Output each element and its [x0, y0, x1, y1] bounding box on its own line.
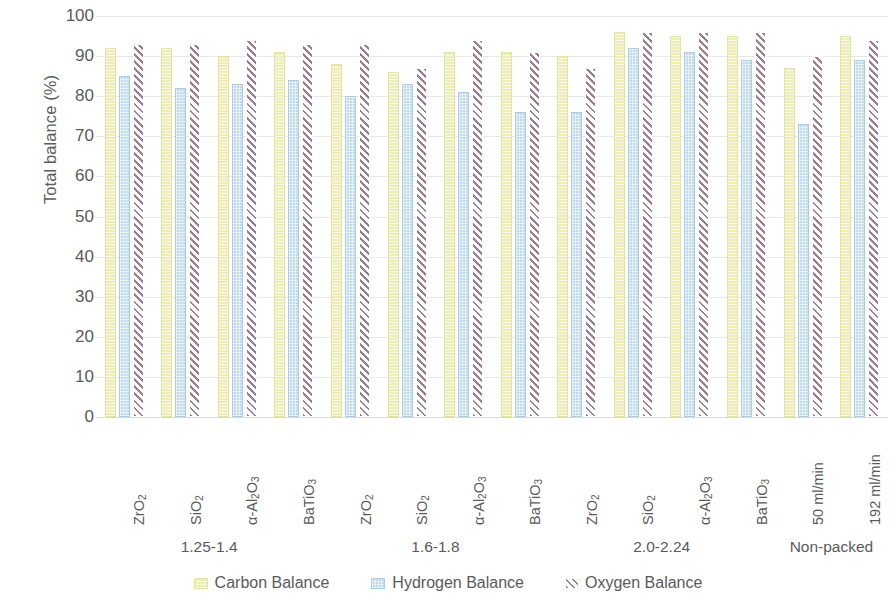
bar-oxygen-13[interactable] [868, 40, 879, 417]
bar-hydrogen-8[interactable] [571, 112, 582, 417]
legend-item-1[interactable]: Hydrogen Balance [371, 574, 524, 592]
bar-carbon-1[interactable] [161, 48, 172, 417]
y-tick-80: 80 [38, 87, 94, 104]
bar-hydrogen-7[interactable] [515, 112, 526, 417]
legend-item-0[interactable]: Carbon Balance [194, 574, 330, 592]
oxygen-swatch-icon [566, 579, 578, 588]
bar-hydrogen-2[interactable] [232, 84, 243, 417]
x-category-label-7: BaTiO3 [527, 415, 543, 525]
total-balance-bar-chart: Total balance (%) 1009080706050403020100… [0, 0, 896, 605]
x-axis-group-labels: 1.25-1.41.6-1.82.0-2.24Non-packed [96, 538, 888, 562]
bar-hydrogen-10[interactable] [684, 52, 695, 417]
y-tick-70: 70 [38, 127, 94, 144]
bar-group-50 ml/min [775, 16, 832, 417]
x-category-label-10: α-Al2O3 [697, 415, 713, 525]
x-category-label-5: SiO2 [414, 415, 430, 525]
y-tick-50: 50 [38, 208, 94, 225]
bar-carbon-9[interactable] [614, 32, 625, 417]
y-tick-10: 10 [38, 368, 94, 385]
bar-carbon-2[interactable] [218, 56, 229, 417]
legend-item-2[interactable]: Oxygen Balance [566, 574, 702, 592]
bar-group-192 ml/min [831, 16, 888, 417]
bar-group-BaTiO3 [718, 16, 775, 417]
y-tick-90: 90 [38, 47, 94, 64]
bar-oxygen-10[interactable] [698, 32, 709, 417]
x-category-label-9: SiO2 [640, 415, 656, 525]
x-category-label-1: SiO2 [188, 415, 204, 525]
group-label-1: 1.6-1.8 [322, 538, 548, 556]
bar-carbon-7[interactable] [501, 52, 512, 417]
bar-hydrogen-5[interactable] [402, 84, 413, 417]
bar-carbon-12[interactable] [784, 68, 795, 417]
bar-group-SiO2 [379, 16, 436, 417]
y-axis-tick-labels: 1009080706050403020100 [38, 0, 94, 430]
x-category-label-11: BaTiO3 [754, 415, 770, 525]
bar-oxygen-0[interactable] [133, 44, 144, 417]
bar-oxygen-7[interactable] [529, 52, 540, 417]
legend-label-0: Carbon Balance [215, 574, 330, 592]
bar-oxygen-6[interactable] [472, 40, 483, 417]
bar-hydrogen-1[interactable] [175, 88, 186, 417]
bar-oxygen-12[interactable] [812, 56, 823, 417]
bar-carbon-4[interactable] [331, 64, 342, 417]
bar-carbon-10[interactable] [670, 36, 681, 417]
bar-group-ZrO2 [322, 16, 379, 417]
carbon-swatch-icon [194, 578, 208, 589]
group-label-2: 2.0-2.24 [549, 538, 775, 556]
bar-oxygen-4[interactable] [359, 44, 370, 417]
legend-label-1: Hydrogen Balance [392, 574, 524, 592]
bar-hydrogen-6[interactable] [458, 92, 469, 417]
y-tick-40: 40 [38, 248, 94, 265]
bar-carbon-8[interactable] [557, 56, 568, 417]
bar-oxygen-3[interactable] [302, 44, 313, 417]
x-category-label-2: α-Al2O3 [244, 415, 260, 525]
bar-hydrogen-3[interactable] [288, 80, 299, 417]
x-category-label-8: ZrO2 [584, 415, 600, 525]
bar-group-SiO2 [605, 16, 662, 417]
bar-carbon-11[interactable] [727, 36, 738, 417]
bar-carbon-6[interactable] [444, 52, 455, 417]
bar-group-BaTiO3 [492, 16, 549, 417]
bar-oxygen-2[interactable] [246, 40, 257, 417]
legend-label-2: Oxygen Balance [585, 574, 702, 592]
group-label-3: Non-packed [775, 538, 888, 556]
y-tick-0: 0 [38, 408, 94, 425]
bar-hydrogen-4[interactable] [345, 96, 356, 417]
bar-carbon-13[interactable] [840, 36, 851, 417]
y-tick-100: 100 [38, 7, 94, 24]
bar-group-ZrO2 [549, 16, 606, 417]
bar-hydrogen-0[interactable] [119, 76, 130, 417]
bar-hydrogen-9[interactable] [628, 48, 639, 417]
bar-carbon-5[interactable] [388, 72, 399, 417]
y-tick-60: 60 [38, 167, 94, 184]
bar-oxygen-11[interactable] [755, 32, 766, 417]
x-category-label-0: ZrO2 [131, 415, 147, 525]
hydrogen-swatch-icon [371, 578, 385, 589]
bar-hydrogen-11[interactable] [741, 60, 752, 417]
bar-oxygen-9[interactable] [642, 32, 653, 417]
bar-group-SiO2 [153, 16, 210, 417]
bar-group-ZrO2 [96, 16, 153, 417]
chart-legend: Carbon BalanceHydrogen BalanceOxygen Bal… [0, 574, 896, 592]
plot-area [96, 16, 888, 417]
x-category-label-6: α-Al2O3 [471, 415, 487, 525]
x-category-label-12: 50 ml/min [810, 415, 826, 525]
bars-layer [96, 16, 888, 417]
bar-oxygen-8[interactable] [585, 68, 596, 417]
bar-carbon-3[interactable] [274, 52, 285, 417]
bar-carbon-0[interactable] [105, 48, 116, 417]
bar-group-BaTiO3 [266, 16, 323, 417]
bar-group-a-Al2O3 [435, 16, 492, 417]
x-axis-category-labels: ZrO2SiO2α-Al2O3BaTiO3ZrO2SiO2α-Al2O3BaTi… [96, 421, 888, 531]
x-category-label-13: 192 ml/min [867, 415, 883, 525]
x-category-label-3: BaTiO3 [301, 415, 317, 525]
bar-hydrogen-13[interactable] [854, 60, 865, 417]
x-category-label-4: ZrO2 [358, 415, 374, 525]
bar-oxygen-5[interactable] [416, 68, 427, 417]
bar-oxygen-1[interactable] [189, 44, 200, 417]
bar-group-a-Al2O3 [209, 16, 266, 417]
group-label-0: 1.25-1.4 [96, 538, 322, 556]
bar-hydrogen-12[interactable] [798, 124, 809, 417]
bar-group-a-Al2O3 [662, 16, 719, 417]
y-tick-20: 20 [38, 328, 94, 345]
